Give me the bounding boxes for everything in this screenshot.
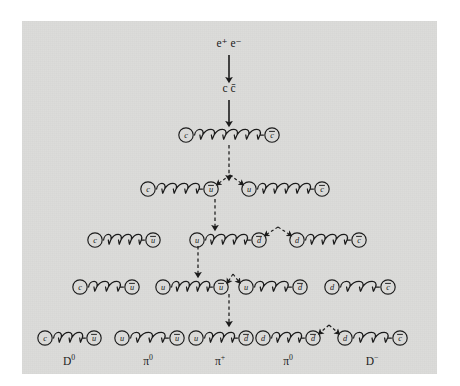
quark-node-c: c bbox=[73, 280, 87, 294]
gluon-string-coil bbox=[131, 332, 169, 342]
quark-letter: d bbox=[311, 334, 316, 343]
quark-node-cbar: c bbox=[393, 331, 407, 345]
quark-letter: d bbox=[343, 334, 348, 343]
hadron-charge: 0 bbox=[149, 353, 153, 362]
quark-letter: c bbox=[270, 131, 274, 140]
hadron-charge: − bbox=[374, 353, 379, 362]
quark-pair: dd bbox=[256, 331, 320, 345]
quark-node-c: c bbox=[141, 182, 155, 196]
quark-pair: dc bbox=[325, 280, 395, 294]
quark-node-u: u bbox=[242, 182, 256, 196]
quark-letter: c bbox=[43, 334, 47, 343]
quark-node-u: u bbox=[239, 280, 253, 294]
quark-node-u: u bbox=[190, 233, 204, 247]
string-break-vertex bbox=[266, 227, 290, 235]
quark-node-cbar: c bbox=[381, 280, 395, 294]
string-break-vertex bbox=[218, 175, 242, 184]
quark-letter: d bbox=[295, 236, 300, 245]
hadron-charge: 0 bbox=[71, 353, 75, 362]
row-3-three-strings: cuuddc bbox=[88, 233, 366, 247]
quark-node-cbar: c bbox=[315, 182, 329, 196]
quark-pair: cu bbox=[38, 331, 101, 345]
quark-pair: dc bbox=[290, 233, 366, 247]
quark-pair: cu bbox=[141, 182, 218, 196]
quark-node-d: d bbox=[338, 331, 352, 345]
quark-letter: u bbox=[195, 236, 199, 245]
quark-pair: ud bbox=[189, 331, 253, 345]
quark-letter: c bbox=[386, 283, 390, 292]
gluon-string-coil bbox=[206, 234, 251, 244]
quark-node-d: d bbox=[290, 233, 304, 247]
intermediate-state-label: c c̄ bbox=[222, 82, 235, 94]
quark-node-ubar: u bbox=[214, 280, 228, 294]
gluon-string-coil bbox=[157, 183, 203, 193]
quark-pair: uu bbox=[115, 331, 184, 345]
row-5-final-hadrons: cuuuuddddc bbox=[38, 331, 407, 345]
quark-letter: d bbox=[330, 283, 335, 292]
quark-node-u: u bbox=[156, 280, 170, 294]
quark-letter: d bbox=[257, 236, 262, 245]
gluon-string-coil bbox=[306, 234, 351, 244]
string-break-vertex bbox=[320, 325, 338, 333]
quark-node-d: d bbox=[325, 280, 339, 294]
quark-pair: ud bbox=[239, 280, 307, 294]
quark-pair: cu bbox=[88, 233, 160, 247]
quark-node-ubar: u bbox=[170, 331, 184, 345]
quark-letter: u bbox=[92, 334, 96, 343]
quark-letter: u bbox=[175, 334, 179, 343]
hadron-label-pi0-right: π0 bbox=[283, 353, 293, 367]
quark-node-ubar: u bbox=[87, 331, 101, 345]
gluon-string-coil bbox=[258, 183, 314, 193]
quark-node-c: c bbox=[179, 128, 193, 142]
hadron-label-d0: D0 bbox=[63, 353, 75, 367]
quark-letter: u bbox=[161, 283, 165, 292]
quark-letter: c bbox=[357, 236, 361, 245]
quark-node-u: u bbox=[189, 331, 203, 345]
hadron-symbol: D bbox=[63, 355, 71, 367]
quark-node-cbar: c bbox=[352, 233, 366, 247]
quark-node-cbar: c bbox=[265, 128, 279, 142]
quark-letter: c bbox=[398, 334, 402, 343]
initial-state-label: e⁺ e⁻ bbox=[216, 37, 241, 49]
quark-node-ubar: u bbox=[125, 280, 139, 294]
quark-pair: cc bbox=[179, 128, 279, 142]
gluon-string-coil bbox=[255, 281, 292, 291]
row-1-ccbar-string: cc bbox=[179, 128, 279, 142]
quark-letter: d bbox=[244, 334, 249, 343]
quark-letter: u bbox=[247, 185, 251, 194]
quark-node-dbar: d bbox=[252, 233, 266, 247]
quark-letter: c bbox=[78, 283, 82, 292]
row-2-two-strings: cuuc bbox=[141, 182, 329, 196]
gluon-string-coil bbox=[205, 332, 238, 342]
gluon-string-coil bbox=[354, 332, 392, 342]
hadron-charge: + bbox=[221, 353, 226, 362]
quark-pair: cu bbox=[73, 280, 139, 294]
quark-letter: u bbox=[151, 236, 155, 245]
quark-node-u: u bbox=[115, 331, 129, 345]
quark-letter: d bbox=[261, 334, 266, 343]
quark-letter: c bbox=[184, 131, 188, 140]
gluon-string-coil bbox=[104, 234, 145, 244]
hadron-label-piplus: π+ bbox=[215, 353, 226, 367]
quark-node-dbar: d bbox=[306, 331, 320, 345]
quark-pair: uu bbox=[156, 280, 228, 294]
figure-root: cccuuccuuddccuuuuddccuuuuddddc e⁺ e⁻c c̄… bbox=[0, 0, 460, 386]
row-4-four-strings: cuuuuddc bbox=[73, 280, 395, 294]
quark-letter: u bbox=[244, 283, 248, 292]
gluon-string-coil bbox=[341, 281, 380, 291]
hadron-label-pi0-left: π0 bbox=[143, 353, 153, 367]
quark-node-dbar: d bbox=[293, 280, 307, 294]
gluon-string-coil bbox=[195, 129, 264, 139]
quark-letter: c bbox=[320, 185, 324, 194]
quark-node-ubar: u bbox=[204, 182, 218, 196]
quark-pair: dc bbox=[338, 331, 407, 345]
hadron-symbol: D bbox=[366, 355, 374, 367]
gluon-string-coil bbox=[89, 281, 124, 291]
quark-letter: u bbox=[219, 283, 223, 292]
hadron-label-dminus: D− bbox=[366, 353, 379, 367]
quark-node-c: c bbox=[88, 233, 102, 247]
quark-letter: d bbox=[298, 283, 303, 292]
fragmentation-diagram: cccuuccuuddccuuuuddccuuuuddddc e⁺ e⁻c c̄… bbox=[0, 0, 460, 386]
quark-letter: u bbox=[194, 334, 198, 343]
gluon-string-coil bbox=[54, 332, 86, 342]
